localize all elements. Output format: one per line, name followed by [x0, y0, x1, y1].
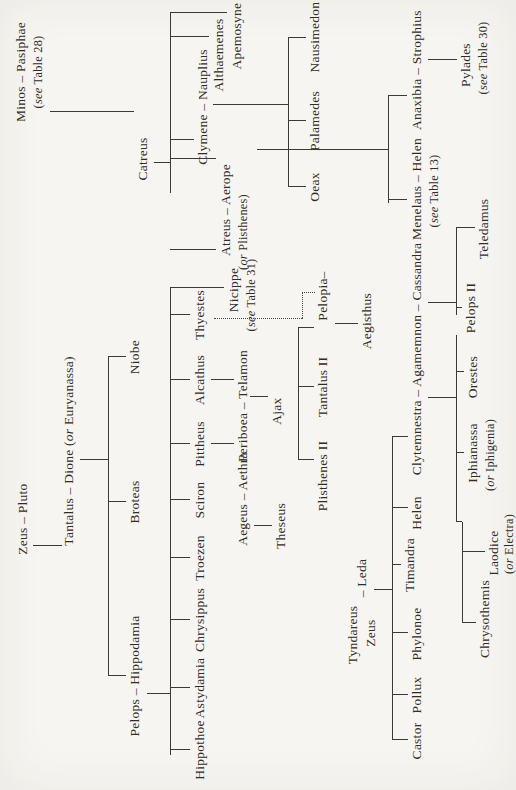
name-astydamia: Astydamia: [193, 658, 208, 719]
connector-line: [288, 37, 306, 38]
connector-line: [211, 443, 234, 444]
connector-line: [392, 739, 408, 740]
connector-line: [392, 507, 408, 508]
connector-line: [170, 36, 209, 37]
name-clymene-nauplius: Clymene – Nauplius: [196, 49, 211, 165]
connector-line: [456, 227, 475, 228]
name-pelopia: Pelopia–: [316, 271, 331, 320]
name-menelaus-helen: Menelaus – Helen: [410, 138, 425, 240]
connector-line: [335, 323, 358, 324]
name-laodice: Laodice: [487, 530, 502, 575]
name-tyndareus: Tyndareus: [346, 606, 361, 664]
name-apemosyne: Apemosyne: [230, 3, 245, 70]
name-pittheus: Pittheus: [193, 421, 208, 467]
connector-line: [170, 288, 171, 755]
connector-line: [250, 396, 268, 397]
connector-line: [374, 589, 392, 590]
connector-line: [213, 104, 288, 105]
connector-line: [108, 501, 126, 502]
connector-line: [170, 314, 190, 315]
connector-line: [288, 120, 306, 121]
connector-line: [456, 452, 464, 453]
dotted-connector-line: [214, 318, 302, 319]
connector-line: [108, 675, 126, 676]
connector-line: [170, 687, 190, 688]
name-palamedes: Palamedes: [308, 91, 323, 151]
connector-line: [170, 619, 190, 620]
name-castor: Castor: [410, 723, 425, 760]
connector-line: [456, 371, 464, 372]
connector-line: [33, 545, 62, 546]
genealogy-table-rotated: Zeus – PlutoTantalus – Dione (or Euryana…: [0, 0, 516, 790]
name-hippothoe: Hippothoe: [193, 720, 208, 779]
connector-line: [392, 436, 408, 437]
name-leda: – Leda: [355, 559, 370, 598]
connector-line: [170, 557, 190, 558]
name-alcathus: Alcathus: [193, 355, 208, 405]
connector-line: [428, 59, 457, 60]
connector-line: [456, 307, 462, 308]
connector-line: [108, 357, 109, 676]
connector-line: [392, 632, 408, 633]
name-nicippe: Nicippe: [227, 268, 242, 313]
connector-line: [462, 522, 463, 623]
name-plisthenes-ii: Plisthenes II: [316, 441, 331, 511]
connector-line: [428, 302, 456, 303]
connector-line: [288, 38, 289, 187]
connector-line: [154, 162, 170, 163]
name-oeax: Oeax: [308, 172, 323, 201]
reading-canvas: Zeus – PlutoTantalus – Dione (or Euryana…: [0, 0, 516, 790]
name-clytemnestra-agamemnon-cassandra: Clytemnestra – Agamemnon – Cassandra: [410, 243, 425, 475]
name-atreus-aerope: Atreus – Aerope: [219, 164, 234, 256]
connector-line: [456, 335, 457, 522]
connector-line: [298, 386, 314, 387]
connector-line: [170, 158, 216, 159]
name-ajax: Ajax: [270, 397, 285, 424]
name-periboea-telamon: Periboea – Telamon: [236, 350, 251, 462]
connector-line: [170, 139, 194, 140]
connector-line: [170, 749, 190, 750]
connector-line: [388, 96, 389, 203]
name-laodice-note: (or Electra): [503, 514, 516, 574]
name-nausimedon: Nausimedon: [308, 2, 323, 73]
name-pelops-hippodamia: Pelops – Hippodamia: [128, 616, 143, 737]
connector-line: [170, 249, 216, 250]
name-pylades: Pylades: [459, 43, 474, 87]
connector-line: [392, 564, 401, 565]
name-chrysippus: Chrysippus: [193, 588, 208, 652]
name-pollux: Pollux: [410, 677, 425, 714]
name-helen: Helen: [410, 496, 425, 529]
name-zeus-pluto: Zeus – Pluto: [16, 483, 31, 554]
name-troezen: Troezen: [193, 535, 208, 581]
connector-line: [456, 228, 457, 315]
name-sciron: Sciron: [193, 482, 208, 519]
name-theseus: Theseus: [274, 503, 289, 549]
name-althaemenes: Althaemenes: [212, 18, 227, 91]
name-phylonoe: Phylonoe: [410, 607, 425, 660]
connector-line: [170, 379, 190, 380]
name-menelaus-note: (see Table 13): [428, 155, 442, 228]
connector-line: [428, 397, 456, 398]
dotted-connector-line: [302, 293, 303, 319]
name-chrysothemis: Chrysothemis: [478, 580, 493, 658]
connector-line: [298, 328, 299, 460]
connector-line: [147, 693, 170, 694]
dotted-connector-line: [302, 292, 315, 293]
connector-line: [298, 327, 314, 328]
connector-line: [298, 459, 314, 460]
name-pylades-note: (see Table 30): [477, 22, 491, 95]
name-timandra: Timandra: [403, 538, 418, 592]
name-nicippe-note: (see Table 31): [245, 259, 259, 332]
connector-line: [388, 199, 407, 200]
connector-line: [211, 379, 234, 380]
connector-line: [170, 499, 190, 500]
scanned-book-page: Zeus – PlutoTantalus – Dione (or Euryana…: [0, 0, 516, 790]
name-zeus-2: Zeus: [364, 619, 379, 646]
name-broteas: Broteas: [128, 481, 143, 524]
connector-line: [392, 694, 408, 695]
connector-line: [257, 149, 388, 150]
name-tantalus-ii: Tantalus II: [316, 357, 331, 418]
name-niobe: Niobe: [128, 340, 143, 374]
connector-line: [170, 287, 224, 288]
connector-line: [170, 12, 227, 13]
